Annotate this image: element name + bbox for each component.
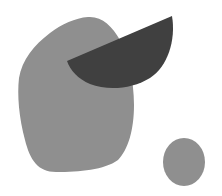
abstract-shapes-canvas xyxy=(0,0,222,196)
small-gray-circle xyxy=(163,138,205,186)
